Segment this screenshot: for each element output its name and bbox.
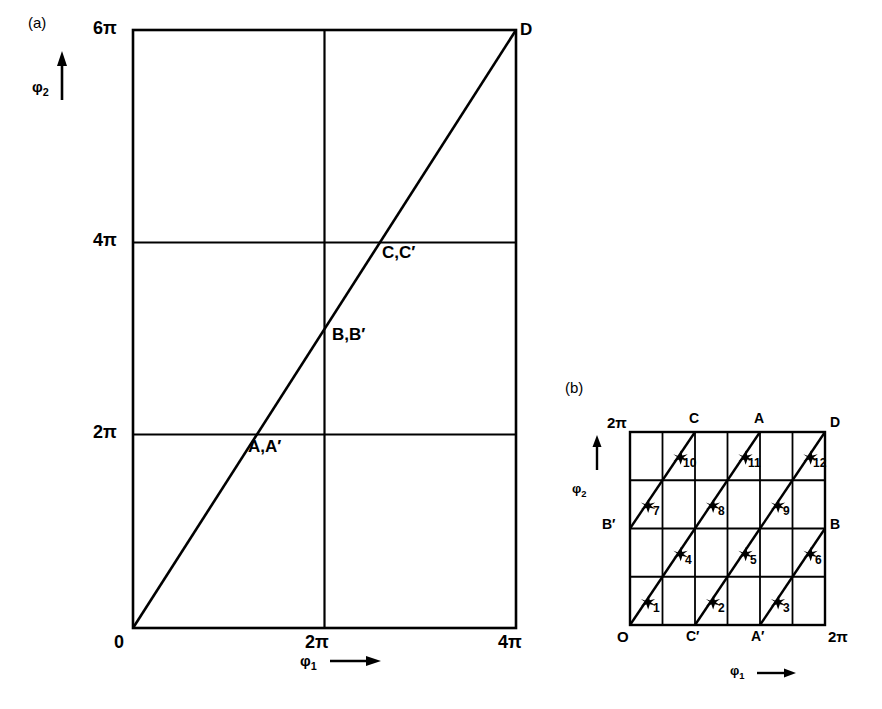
panel-b-xtick-2pi: 2π	[828, 628, 848, 645]
panel-b-segment-number-5: 5	[750, 553, 757, 567]
panel-b-edge-label-d-corner: D	[830, 414, 840, 430]
panel-a-y-axis-symbol: φ	[32, 78, 43, 95]
panel-b-edge-label-b-right: B	[830, 516, 840, 532]
panel-b-x-axis-label: φ1	[730, 663, 745, 681]
panel-a-ytick-4pi: 4π	[93, 230, 117, 251]
panel-b-segment-number-1: 1	[653, 601, 660, 615]
panel-a-ytick-6pi: 6π	[93, 18, 117, 39]
panel-a-plot	[57, 30, 516, 666]
panel-b-ytick-2pi: 2π	[607, 414, 627, 431]
panel-b-segment-number-6: 6	[815, 553, 822, 567]
figure-canvas: (a) 6π 4π 2π 0 2π 4π φ2 φ1 A,A′ B,B′ C,C…	[0, 0, 882, 709]
panel-a-point-label-aa: A,A′	[248, 437, 281, 457]
panel-b-x-axis-symbol: φ	[730, 663, 739, 678]
panel-b-segment-number-8: 8	[718, 504, 725, 518]
panel-a-x-axis-label: φ1	[300, 652, 317, 672]
panel-b-segment-number-7: 7	[653, 504, 660, 518]
panel-a-ytick-0: 0	[114, 632, 124, 653]
panel-b-segment-number-9: 9	[783, 504, 790, 518]
panel-b-y-axis-symbol: φ	[572, 481, 581, 496]
panel-a-tag: (a)	[28, 14, 46, 31]
panel-b-edge-label-bprime-left: B′	[602, 516, 615, 532]
panel-b-edge-label-a-top: A	[754, 410, 764, 426]
panel-a-y-axis-arrow-icon	[57, 51, 67, 100]
panel-a-xtick-4pi: 4π	[498, 632, 522, 653]
figure-vector-layer	[0, 0, 882, 709]
panel-b-segment-number-11: 11	[748, 456, 761, 470]
panel-b-segment-number-10: 10	[683, 456, 696, 470]
panel-a-y-axis-label: φ2	[32, 78, 49, 98]
panel-b-edge-label-cprime-bottom: C′	[686, 628, 699, 644]
panel-b-y-axis-arrow-icon	[593, 435, 602, 470]
panel-b-segment-number-12: 12	[813, 456, 826, 470]
panel-a-xtick-2pi: 2π	[305, 632, 329, 653]
panel-a-point-label-cc: C,C′	[382, 243, 415, 263]
panel-b-y-axis-subscript: 2	[581, 489, 586, 499]
panel-a-x-axis-subscript: 1	[311, 660, 317, 672]
panel-a-point-label-d: D	[520, 20, 532, 40]
panel-b-segment-number-3: 3	[783, 601, 790, 615]
panel-b-y-axis-label: φ2	[572, 481, 587, 499]
panel-b-segment-number-4: 4	[685, 553, 692, 567]
panel-b-x-axis-subscript: 1	[739, 671, 744, 681]
panel-b-tag: (b)	[565, 379, 583, 396]
panel-a-x-axis-arrow-icon	[330, 656, 381, 666]
panel-a-point-label-bb: B,B′	[332, 325, 365, 345]
panel-a-ytick-2pi: 2π	[93, 422, 117, 443]
panel-a-x-axis-symbol: φ	[300, 652, 311, 669]
panel-b-edge-label-aprime-bottom: A′	[751, 628, 764, 644]
panel-a-y-axis-subscript: 2	[43, 86, 49, 98]
panel-b-xtick-0: O	[617, 628, 629, 645]
panel-b-edge-label-c-top: C	[689, 410, 699, 426]
panel-b-segment-number-2: 2	[718, 601, 725, 615]
panel-b-x-axis-arrow-icon	[757, 669, 796, 678]
